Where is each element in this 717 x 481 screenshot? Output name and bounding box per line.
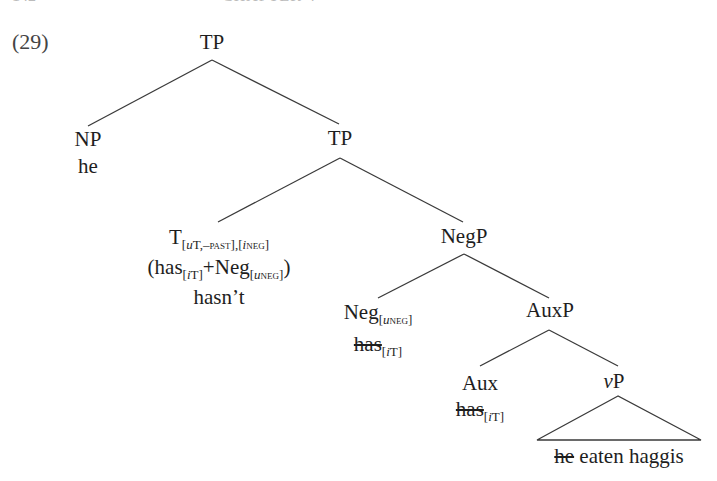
tp-root-label: TP bbox=[200, 30, 225, 54]
node-negp: NegP bbox=[441, 224, 488, 248]
aux-label: Aux bbox=[456, 370, 504, 396]
node-neg-head: Neg[uneg] has[iT] bbox=[344, 300, 413, 364]
branch-auxp-aux bbox=[480, 330, 549, 366]
vp-terminal-string: he eaten haggis bbox=[554, 444, 683, 468]
node-vp: vP bbox=[603, 369, 624, 393]
branch-tp-np bbox=[88, 60, 212, 126]
neg-label: Neg bbox=[344, 300, 379, 324]
neg-deleted-has: has bbox=[354, 332, 382, 356]
t-complex-head: (has[iT]+Neg[uneg]) bbox=[148, 256, 291, 286]
node-np: NP he bbox=[75, 127, 102, 178]
tp-intermediate-label: TP bbox=[328, 126, 353, 150]
negp-label: NegP bbox=[441, 224, 488, 248]
node-t-head: T[uT,–past],[ineg] (has[iT]+Neg[uneg]) h… bbox=[148, 226, 291, 308]
t-features: [uT,–past],[ineg] bbox=[182, 237, 269, 252]
node-auxp: AuxP bbox=[526, 298, 574, 322]
vp-words: eaten haggis bbox=[574, 444, 684, 468]
t-label: T bbox=[169, 225, 182, 249]
node-tp-intermediate: TP bbox=[328, 126, 353, 150]
node-aux-head: Aux has[iT] bbox=[456, 370, 504, 430]
neg-label-line: Neg[uneg] bbox=[344, 300, 413, 332]
vp-triangle bbox=[537, 396, 701, 440]
vp-label-p: P bbox=[613, 369, 625, 393]
neg-features: [uneg] bbox=[379, 312, 413, 327]
t-word: hasn’t bbox=[148, 286, 291, 308]
branch-tp-tp bbox=[212, 60, 339, 124]
np-word: he bbox=[75, 154, 102, 178]
auxp-label: AuxP bbox=[526, 298, 574, 322]
t-label-line: T[uT,–past],[ineg] bbox=[148, 226, 291, 256]
aux-deleted-has: has bbox=[456, 397, 484, 421]
vp-label-v: v bbox=[603, 369, 612, 393]
branch-auxp-vp bbox=[549, 330, 618, 366]
branch-tp-negp bbox=[340, 158, 463, 222]
aux-trace: has[iT] bbox=[456, 396, 504, 430]
vp-deleted-subject: he bbox=[554, 444, 574, 468]
branch-tp-t bbox=[218, 158, 340, 222]
branch-negp-neg bbox=[378, 254, 464, 298]
neg-trace: has[iT] bbox=[344, 332, 413, 364]
np-label: NP bbox=[75, 127, 102, 151]
tree-branches bbox=[0, 0, 717, 481]
branch-negp-auxp bbox=[464, 254, 549, 298]
node-tp-root: TP bbox=[200, 30, 225, 54]
